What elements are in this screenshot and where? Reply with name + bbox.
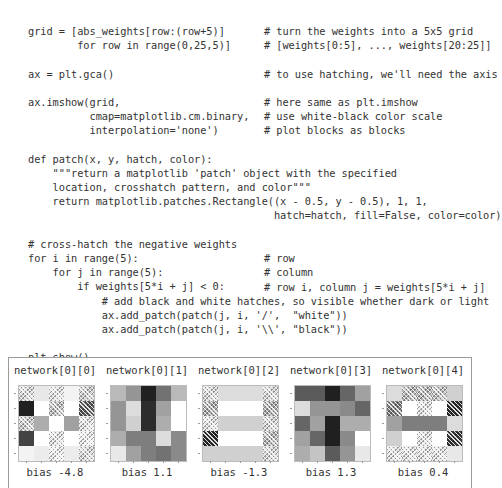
figure-output: network[0][0]bias -4.8network[0][1]bias … xyxy=(8,357,472,488)
heatmap-cell xyxy=(340,446,355,461)
code-line: # cross-hatch the negative weights xyxy=(28,237,502,251)
code-text: cmap=matplotlib.cm.binary, xyxy=(28,110,249,122)
heatmap-cell xyxy=(295,416,310,431)
heatmap-cell xyxy=(64,431,79,446)
heatmap-cell xyxy=(310,386,325,401)
heatmap-cell xyxy=(19,446,34,461)
heatmap-cell xyxy=(19,431,34,446)
y-axis-ticks xyxy=(198,385,201,460)
code-text: if weights[5*i + j] < 0: xyxy=(28,280,225,292)
code-comment: # turn the weights into a 5x5 grid xyxy=(264,24,473,38)
code-line xyxy=(28,223,502,237)
heatmap-cell xyxy=(126,416,141,431)
heatmap-cell xyxy=(171,431,186,446)
heatmap-cell xyxy=(111,431,126,446)
heatmap-cell-negative xyxy=(447,401,462,416)
heatmap-cell xyxy=(233,386,248,401)
heatmap-cell xyxy=(233,416,248,431)
panel-title: network[0][1] xyxy=(101,364,193,376)
x-axis-ticks xyxy=(18,461,93,465)
heatmap-cell xyxy=(171,416,186,431)
heatmap-panel: network[0][1]bias 1.1 xyxy=(101,358,193,480)
heatmap-cell xyxy=(325,431,340,446)
code-line xyxy=(28,138,502,152)
heatmap-cell xyxy=(171,386,186,401)
code-text: hatch=hatch, fill=False, color=color) xyxy=(28,209,502,221)
heatmap-cell-negative xyxy=(203,386,218,401)
heatmap-cell-negative xyxy=(263,446,278,461)
heatmap-cell xyxy=(141,446,156,461)
y-axis-ticks xyxy=(382,385,385,460)
code-text: ax.imshow(grid, xyxy=(28,96,120,108)
heatmap-cell xyxy=(325,416,340,431)
heatmap-cell xyxy=(141,401,156,416)
heatmap-cell xyxy=(64,386,79,401)
heatmap-cell xyxy=(111,386,126,401)
heatmap-cell-negative xyxy=(203,401,218,416)
heatmap-cell-negative xyxy=(417,431,432,446)
heatmap-cell xyxy=(156,431,171,446)
bias-label: bias -1.3 xyxy=(193,466,285,478)
heatmap-cell xyxy=(218,401,233,416)
heatmap-cell xyxy=(171,401,186,416)
heatmap-cell xyxy=(340,431,355,446)
code-text: # cross-hatch the negative weights xyxy=(28,238,237,250)
heatmap-cell xyxy=(218,446,233,461)
code-line: ax.add_patch(patch(j, i, '\\', "black")) xyxy=(28,322,502,336)
heatmap-cell xyxy=(34,386,49,401)
heatmap-cell xyxy=(340,386,355,401)
code-line xyxy=(28,81,502,95)
heatmap-cell xyxy=(248,431,263,446)
heatmap-cell xyxy=(432,401,447,416)
code-comment: # use white-black color scale xyxy=(264,109,442,123)
heatmap-cell xyxy=(387,416,402,431)
heatmap-cell xyxy=(355,386,370,401)
heatmap-cell-negative xyxy=(79,446,94,461)
y-axis-ticks xyxy=(290,385,293,460)
heatmap-cell xyxy=(447,446,462,461)
x-axis-ticks xyxy=(294,461,369,465)
code-text: for j in range(5): xyxy=(28,266,163,278)
code-text: # add black and white hatches, so visibl… xyxy=(28,295,489,307)
heatmap-cell-negative xyxy=(263,416,278,431)
heatmap-cell xyxy=(218,431,233,446)
heatmap-cell-negative xyxy=(417,446,432,461)
code-comment: # row xyxy=(264,251,295,265)
heatmap-cell-negative xyxy=(203,416,218,431)
code-comment: # column xyxy=(264,265,313,279)
heatmap-cell-negative xyxy=(402,386,417,401)
heatmap-cell xyxy=(218,416,233,431)
y-axis-ticks xyxy=(106,385,109,460)
heatmap-cell xyxy=(248,446,263,461)
bias-label: bias 1.3 xyxy=(285,466,377,478)
code-comment: # here same as plt.imshow xyxy=(264,95,418,109)
heatmap-cell xyxy=(34,446,49,461)
heatmap-cell-negative xyxy=(49,446,64,461)
code-line: # add black and white hatches, so visibl… xyxy=(28,294,502,308)
code-line: return matplotlib.patches.Rectangle((x -… xyxy=(28,194,502,208)
heatmap-cell xyxy=(248,401,263,416)
heatmap-cell-negative xyxy=(417,401,432,416)
heatmap-cell-negative xyxy=(203,431,218,446)
heatmap-cell xyxy=(126,431,141,446)
heatmap-cell xyxy=(310,416,325,431)
y-axis-ticks xyxy=(14,385,17,460)
heatmap-cell xyxy=(233,401,248,416)
heatmap-cell xyxy=(233,431,248,446)
heatmap-cell xyxy=(141,416,156,431)
code-block: # turn the weights into a 5x5 gridgrid =… xyxy=(28,24,502,365)
heatmap-cell xyxy=(355,431,370,446)
heatmap-cell xyxy=(233,446,248,461)
heatmap-cell xyxy=(402,416,417,431)
code-comment: # plot blocks as blocks xyxy=(264,123,405,137)
heatmap-cell xyxy=(171,446,186,461)
heatmap-cell xyxy=(295,446,310,461)
heatmap-cell xyxy=(310,401,325,416)
heatmap-cell-negative xyxy=(263,386,278,401)
heatmap-cell xyxy=(64,401,79,416)
heatmap-panel: network[0][2]bias -1.3 xyxy=(193,358,285,480)
heatmap-cell xyxy=(126,446,141,461)
x-axis-ticks xyxy=(202,461,277,465)
heatmap-cell xyxy=(432,431,447,446)
heatmap-panel: network[0][4]bias 0.4 xyxy=(377,358,469,480)
